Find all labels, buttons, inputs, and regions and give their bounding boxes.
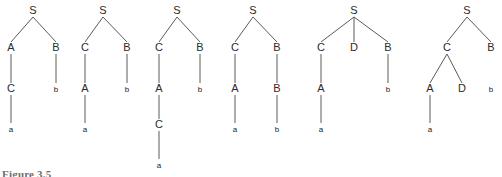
terminal-node: b bbox=[125, 85, 130, 94]
terminal-node: a bbox=[319, 125, 324, 134]
terminal-node: b bbox=[489, 85, 494, 94]
figure-caption: Figure 3.5 bbox=[2, 168, 51, 177]
nonterminal-node: C bbox=[7, 82, 15, 94]
parse-tree-figure: SABCbaSCBAbaSCBAbCaSCBABabSCDBAbaSCBADba bbox=[0, 0, 502, 177]
nonterminal-node: B bbox=[384, 41, 391, 53]
nonterminal-node: S bbox=[249, 4, 256, 16]
tree-edge bbox=[430, 54, 447, 83]
nonterminal-node: S bbox=[29, 4, 36, 16]
tree-edge bbox=[447, 17, 467, 42]
terminal-node: b bbox=[386, 85, 391, 94]
tree-edge bbox=[321, 17, 354, 42]
tree-edge bbox=[447, 54, 462, 83]
nonterminal-node: C bbox=[443, 41, 451, 53]
tree-edge bbox=[467, 17, 491, 42]
nonterminal-node: C bbox=[231, 41, 239, 53]
terminal-node: b bbox=[198, 85, 203, 94]
parse-tree: SCBAbCa bbox=[155, 4, 204, 170]
tree-edge bbox=[33, 17, 56, 42]
tree-edge bbox=[235, 17, 253, 42]
terminal-node: a bbox=[428, 125, 433, 134]
tree-edge bbox=[103, 17, 127, 42]
nonterminal-node: B bbox=[52, 41, 59, 53]
nonterminal-node: C bbox=[81, 41, 89, 53]
nonterminal-node: B bbox=[123, 41, 130, 53]
nonterminal-node: A bbox=[7, 41, 15, 53]
nonterminal-node: S bbox=[99, 4, 106, 16]
tree-edge bbox=[11, 17, 33, 42]
nonterminal-node: A bbox=[317, 82, 325, 94]
nonterminal-node: S bbox=[463, 4, 470, 16]
nonterminal-node: A bbox=[155, 82, 163, 94]
nonterminal-node: B bbox=[273, 41, 280, 53]
nonterminal-node: B bbox=[487, 41, 494, 53]
nonterminal-node: D bbox=[458, 82, 466, 94]
terminal-node: b bbox=[275, 125, 280, 134]
parse-tree: SCBABab bbox=[231, 4, 281, 134]
nonterminal-node: A bbox=[426, 82, 434, 94]
tree-edge bbox=[354, 17, 388, 42]
terminal-node: a bbox=[157, 161, 162, 170]
nonterminal-node: B bbox=[273, 82, 280, 94]
parse-tree: SCDBAba bbox=[317, 4, 392, 134]
nonterminal-node: A bbox=[231, 82, 239, 94]
parse-tree: SCBADba bbox=[426, 4, 494, 134]
tree-edge bbox=[253, 17, 277, 42]
terminal-node: b bbox=[54, 85, 59, 94]
nonterminal-node: C bbox=[155, 118, 163, 130]
nonterminal-node: C bbox=[317, 41, 325, 53]
nonterminal-node: S bbox=[350, 4, 357, 16]
nonterminal-node: B bbox=[196, 41, 203, 53]
terminal-node: a bbox=[233, 125, 238, 134]
nonterminal-node: C bbox=[155, 41, 163, 53]
parse-tree: SCBAba bbox=[81, 4, 131, 134]
tree-edge bbox=[85, 17, 103, 42]
tree-edge bbox=[177, 17, 200, 42]
terminal-node: a bbox=[9, 125, 14, 134]
parse-tree: SABCba bbox=[7, 4, 60, 134]
parse-tree-svg: SABCbaSCBAbaSCBAbCaSCBABabSCDBAbaSCBADba bbox=[0, 0, 502, 177]
nonterminal-node: S bbox=[173, 4, 180, 16]
tree-edge bbox=[159, 17, 177, 42]
nonterminal-node: D bbox=[350, 41, 358, 53]
terminal-node: a bbox=[83, 125, 88, 134]
nonterminal-node: A bbox=[81, 82, 89, 94]
